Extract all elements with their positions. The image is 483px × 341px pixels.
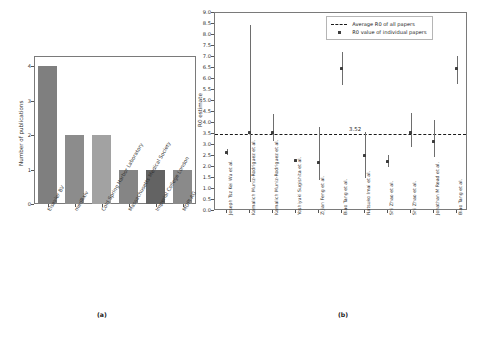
x-tick-mark [341,210,342,213]
data-point [363,154,366,157]
y-tick-label: 8.5 [194,20,211,26]
legend-label-average: Average R0 of all papers [352,21,415,27]
x-tick-mark [272,210,273,213]
legend-entry-average: Average R0 of all papers [331,20,426,28]
average-r0-value-label: 3.52 [349,126,361,132]
y-tick-mark [211,34,214,35]
y-tick-label: 2.0 [194,163,211,169]
x-tick-label: Jonathan M Read et al. [435,162,440,215]
x-tick-label: Shi Zhao et al. [412,181,417,215]
y-tick-mark [211,166,214,167]
y-tick-label: 6.0 [194,75,211,81]
y-tick-mark [211,133,214,134]
y-tick-label: 1.5 [194,174,211,180]
y-tick-mark [31,170,34,171]
y-tick-mark [211,199,214,200]
y-tick-mark [211,111,214,112]
error-bar [273,114,274,140]
panel-b-r0-estimate-chart: R0 estimate 3.52 Average R0 of all paper… [185,0,483,341]
x-tick-mark [433,210,434,213]
y-tick-label: 2.5 [194,152,211,158]
x-tick-mark [295,210,296,213]
y-tick-mark [211,144,214,145]
y-tick-label: 6.5 [194,64,211,70]
dashed-line-icon [331,24,347,25]
bar [38,66,57,204]
y-tick-mark [31,135,34,136]
x-tick-label: Yoshiyuki Sugishita et al. [297,157,302,215]
data-point [271,131,274,134]
data-point [225,151,228,154]
data-point [432,140,435,143]
y-tick-label: 7.5 [194,42,211,48]
y-tick-mark [31,204,34,205]
y-tick-label: 3 [23,98,31,104]
y-tick-label: 4.5 [194,108,211,114]
data-point [455,67,458,70]
y-tick-mark [211,45,214,46]
panel-a-caption: (a) [97,311,107,318]
y-tick-label: 2 [23,132,31,138]
y-tick-label: 8.0 [194,31,211,37]
y-tick-mark [211,56,214,57]
x-tick-mark [249,210,250,213]
y-tick-mark [211,210,214,211]
panel-b-caption: (b) [338,311,348,318]
data-point [340,67,343,70]
y-tick-label: 4 [23,63,31,69]
y-tick-label: 0 [23,201,31,207]
x-tick-mark [410,210,411,213]
data-point [409,131,412,134]
y-tick-label: 4.0 [194,119,211,125]
marker-icon [331,31,347,34]
x-tick-label: Biao Tang et al. [458,179,463,215]
data-point [248,131,251,134]
x-tick-mark [318,210,319,213]
y-tick-mark [211,67,214,68]
y-tick-label: 0.0 [194,207,211,213]
x-tick-mark [226,210,227,213]
y-tick-mark [211,89,214,90]
data-point [317,161,320,164]
data-point [386,160,389,163]
legend-label-individual: R0 value of individual papers [352,29,426,35]
x-tick-label: Biao Tang et al. [343,179,348,215]
y-tick-mark [211,78,214,79]
y-tick-mark [211,23,214,24]
x-tick-label: Shi Zhao et al. [389,181,394,215]
x-tick-label: Kamalich Muniz-Rodriguez et al. [251,140,256,215]
y-tick-label: 5.0 [194,97,211,103]
y-tick-mark [211,155,214,156]
y-tick-mark [211,122,214,123]
y-tick-label: 7.0 [194,53,211,59]
y-tick-label: 1.0 [194,185,211,191]
x-tick-label: Joseph Tsz Kei Wu et al. [228,160,233,215]
y-tick-mark [211,100,214,101]
x-tick-mark [456,210,457,213]
y-tick-mark [31,101,34,102]
y-tick-label: 9.0 [194,9,211,15]
x-tick-mark [387,210,388,213]
average-r0-dashed-line [215,134,466,135]
y-tick-mark [31,66,34,67]
x-tick-label: Kamalich Muniz-Rodriguez et al. [274,140,279,215]
y-tick-mark [211,188,214,189]
panel-a-publications-bar-chart: Number of publications 01234 Elsevier BV… [0,0,210,341]
error-bar [434,120,435,157]
error-bar [319,127,320,180]
y-tick-label: 0.5 [194,196,211,202]
error-bar [457,56,458,85]
x-tick-mark [364,210,365,213]
x-tick-label: Zijian Feng et al. [320,176,325,215]
y-tick-mark [211,177,214,178]
y-tick-label: 5.5 [194,86,211,92]
y-tick-label: 3.0 [194,141,211,147]
y-tick-mark [211,12,214,13]
panel-b-legend: Average R0 of all papers R0 value of ind… [326,16,432,40]
y-tick-label: 3.5 [194,130,211,136]
legend-entry-individual: R0 value of individual papers [331,28,426,36]
figure-canvas: Number of publications 01234 Elsevier BV… [0,0,483,341]
y-tick-label: 1 [23,167,31,173]
x-tick-label: Natsuko Imai et al. [366,171,371,215]
